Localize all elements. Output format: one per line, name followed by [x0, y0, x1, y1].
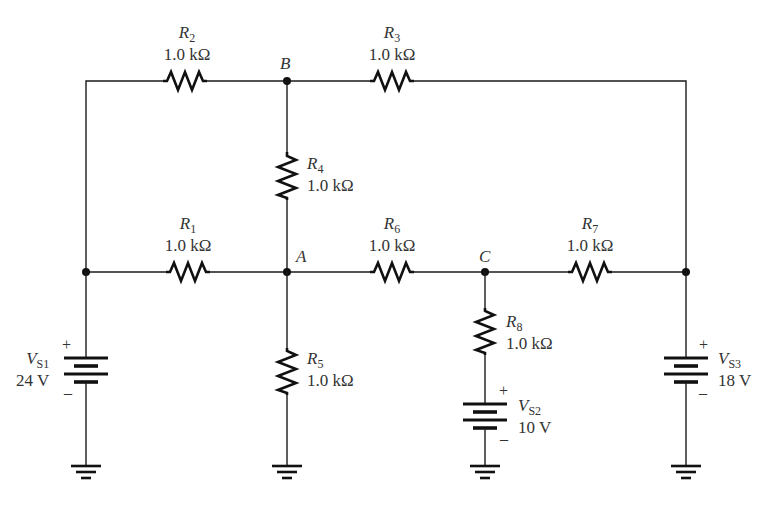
source-vs3-name: VS3 — [718, 350, 751, 370]
node-label-a: A — [296, 248, 306, 265]
resistor-r3-zigzag — [370, 72, 414, 90]
ground-icon — [272, 466, 302, 478]
resistor-r5-name: R5 — [307, 350, 354, 370]
node-b-dot — [283, 77, 291, 85]
resistor-r6-label: R6 1.0 kΩ — [369, 215, 416, 254]
resistor-r7-value: 1.0 kΩ — [567, 237, 614, 254]
ground-icon — [470, 466, 500, 478]
resistor-r4-name: R4 — [307, 155, 354, 175]
resistor-r7-name: R7 — [567, 215, 614, 235]
resistor-r3-label: R3 1.0 kΩ — [369, 24, 416, 63]
vs2-minus-sign: – — [500, 431, 508, 447]
resistor-r8-value: 1.0 kΩ — [506, 335, 553, 352]
resistor-r4-label: R4 1.0 kΩ — [307, 155, 354, 194]
resistor-r6-name: R6 — [369, 215, 416, 235]
resistor-r1-value: 1.0 kΩ — [165, 237, 212, 254]
source-vs2-value: 10 V — [518, 419, 551, 436]
vs3-plus-sign: + — [699, 337, 708, 353]
battery-vs3-icon — [664, 358, 708, 382]
resistor-r3-name: R3 — [369, 24, 416, 44]
circuit-schematic — [0, 0, 771, 512]
source-vs1-label: VS1 24 V — [16, 350, 49, 389]
resistor-r1-zigzag — [166, 263, 210, 281]
vs1-plus-sign: + — [62, 337, 71, 353]
vs3-minus-sign: – — [699, 385, 707, 401]
resistor-r2-zigzag — [163, 72, 207, 90]
resistor-r2-value: 1.0 kΩ — [164, 46, 211, 63]
resistor-r8-label: R8 1.0 kΩ — [506, 313, 553, 352]
resistor-r5-zigzag — [278, 348, 296, 395]
resistor-r1-label: R1 1.0 kΩ — [165, 215, 212, 254]
battery-vs2-icon — [463, 404, 507, 428]
node-label-b: B — [280, 55, 290, 72]
source-vs2-name: VS2 — [518, 397, 551, 417]
resistor-r7-label: R7 1.0 kΩ — [567, 215, 614, 254]
resistor-r3-value: 1.0 kΩ — [369, 46, 416, 63]
resistor-r4-value: 1.0 kΩ — [307, 177, 354, 194]
resistor-r6-value: 1.0 kΩ — [369, 237, 416, 254]
vs1-minus-sign: – — [64, 385, 72, 401]
resistor-r2-label: R2 1.0 kΩ — [164, 24, 211, 63]
ground-icon — [71, 466, 101, 478]
resistor-r2-name: R2 — [164, 24, 211, 44]
resistor-r6-zigzag — [370, 263, 414, 281]
vs2-plus-sign: + — [499, 383, 508, 399]
source-vs3-label: VS3 18 V — [718, 350, 751, 389]
resistor-r4-zigzag — [278, 152, 296, 200]
resistor-r8-name: R8 — [506, 313, 553, 333]
resistor-r7-zigzag — [568, 263, 612, 281]
source-vs3-value: 18 V — [718, 372, 751, 389]
source-vs1-value: 24 V — [16, 372, 49, 389]
ground-icon — [671, 466, 701, 478]
source-vs1-name: VS1 — [16, 350, 49, 370]
resistor-r5-label: R5 1.0 kΩ — [307, 350, 354, 389]
resistor-r8-zigzag — [476, 308, 494, 355]
resistor-r5-value: 1.0 kΩ — [307, 372, 354, 389]
node-label-c: C — [479, 248, 490, 265]
source-vs2-label: VS2 10 V — [518, 397, 551, 436]
battery-vs1-icon — [64, 358, 108, 382]
resistor-r1-name: R1 — [165, 215, 212, 235]
